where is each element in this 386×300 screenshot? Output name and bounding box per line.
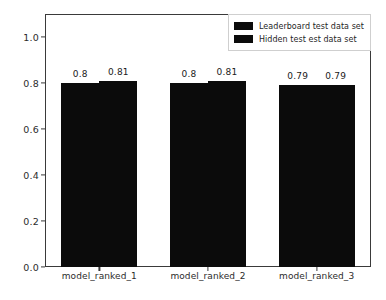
bar-value-label: 0.79 [325, 71, 346, 81]
x-axis-tick-mark [99, 267, 100, 271]
bar-value-label: 0.81 [108, 67, 129, 77]
legend-item-label: Hidden test est data set [259, 35, 357, 44]
x-axis-tick-label: model_ranked_1 [62, 271, 137, 281]
y-axis-tick-label: 0.0 [0, 262, 45, 273]
chart-legend: Leaderboard test data set Hidden test es… [228, 14, 371, 51]
bar-value-label: 0.8 [73, 69, 88, 79]
bar [317, 85, 355, 267]
bar-value-label: 0.8 [182, 69, 197, 79]
legend-item-label: Leaderboard test data set [259, 22, 364, 31]
y-axis-tick-label: 0.4 [0, 170, 45, 181]
y-axis-tick-label: 1.0 [0, 32, 45, 43]
bar [279, 85, 317, 267]
bar [61, 83, 99, 267]
bar-value-label: 0.79 [287, 71, 308, 81]
bar [170, 83, 208, 267]
bar [208, 81, 246, 267]
bar-value-label: 0.81 [217, 67, 238, 77]
y-axis-tick-label: 0.2 [0, 216, 45, 227]
legend-item: Hidden test est data set [234, 33, 364, 45]
legend-swatch-icon [234, 22, 253, 30]
bar [99, 81, 137, 267]
legend-swatch-icon [234, 35, 253, 43]
x-axis-tick-mark [316, 267, 317, 271]
y-axis-tick-label: 0.8 [0, 78, 45, 89]
x-axis-tick-label: model_ranked_2 [170, 271, 245, 281]
bar-chart-figure: Accuracy scores 0.00.20.40.60.81.0 model… [0, 0, 386, 300]
y-axis-tick-label: 0.6 [0, 124, 45, 135]
x-axis-tick-mark [207, 267, 208, 271]
legend-item: Leaderboard test data set [234, 20, 364, 32]
x-axis-tick-label: model_ranked_3 [279, 271, 354, 281]
